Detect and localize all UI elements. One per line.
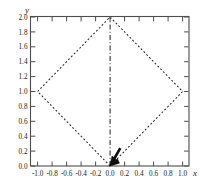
y-tick-label: 1.8 [19, 29, 28, 37]
y-tick-label: 1.2 [19, 73, 28, 81]
y-tick-label: 0.4 [19, 133, 28, 141]
y-tick-label: 0.2 [19, 148, 28, 156]
figure-container: -1.0 -0.8 -0.6 -0.4 -0.2 0.0 0.2 0.4 0.6… [0, 0, 200, 187]
x-tick-label: -0.4 [75, 170, 87, 178]
y-tick-label: 0.8 [19, 103, 28, 111]
chart-canvas: -1.0 -0.8 -0.6 -0.4 -0.2 0.0 0.2 0.4 0.6… [0, 0, 200, 187]
x-tick-label: -1.0 [32, 170, 44, 178]
y-tick-label: 1.4 [19, 58, 28, 66]
x-tick-label: 0.4 [135, 170, 144, 178]
y-tick-label: 1.0 [19, 88, 28, 96]
x-tick-label: 0.6 [149, 170, 158, 178]
x-tick-label: 0.0 [106, 170, 115, 178]
y-axis-ticks [31, 17, 35, 166]
x-tick-label: -0.8 [46, 170, 58, 178]
origin-arrow-annotation [110, 148, 121, 166]
y-tick-label: 1.6 [19, 43, 28, 51]
x-tick-label: 0.8 [164, 170, 173, 178]
y-tick-label: 0.6 [19, 118, 28, 126]
x-tick-label: 0.2 [120, 170, 129, 178]
y-tick-label: 2.0 [19, 14, 28, 22]
x-tick-label: -0.2 [90, 170, 102, 178]
x-axis-label: x [192, 168, 197, 178]
y-tick-label: 0.0 [19, 163, 28, 171]
right-axis-ticks [184, 17, 188, 166]
y-axis-label: y [24, 5, 29, 15]
y-tick-labels: 0.0 0.2 0.4 0.6 0.8 1.0 1.2 1.4 1.6 1.8 … [19, 14, 28, 171]
x-tick-label: -0.6 [61, 170, 73, 178]
x-tick-labels: -1.0 -0.8 -0.6 -0.4 -0.2 0.0 0.2 0.4 0.6… [32, 170, 188, 178]
x-tick-label: 1.0 [178, 170, 187, 178]
